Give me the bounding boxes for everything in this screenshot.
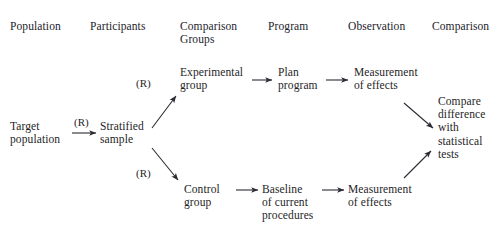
column-header-program: Program — [268, 20, 308, 33]
node-control-group: Control group — [184, 183, 220, 209]
edge-label-randomize-control: (R) — [136, 167, 151, 179]
edge-label-randomize-sample: (R) — [74, 116, 89, 128]
node-measurement-bottom: Measurement of effects — [348, 183, 412, 209]
node-baseline: Baseline of current procedures — [262, 183, 313, 223]
column-header-observation: Observation — [348, 20, 405, 33]
node-compare-difference: Compare difference with statistical test… — [438, 95, 485, 161]
node-target-population: Target population — [10, 120, 60, 146]
column-header-participants: Participants — [90, 20, 146, 33]
column-header-comparison-groups: Comparison Groups — [180, 20, 237, 46]
edge-sample-to-control — [152, 148, 178, 180]
edge-measurement-bottom-to-compare — [404, 151, 431, 178]
diagram-canvas: Population Participants Comparison Group… — [0, 0, 501, 237]
node-measurement-top: Measurement of effects — [354, 66, 418, 92]
node-plan-program: Plan program — [278, 66, 318, 92]
edge-sample-to-experimental — [152, 96, 176, 128]
column-header-comparison: Comparison — [432, 20, 489, 33]
node-experimental-group: Experimental group — [180, 66, 243, 92]
edge-label-randomize-experimental: (R) — [136, 77, 151, 89]
column-header-population: Population — [10, 20, 61, 33]
edge-measurement-top-to-compare — [404, 103, 433, 128]
node-stratified-sample: Stratified sample — [100, 120, 144, 146]
